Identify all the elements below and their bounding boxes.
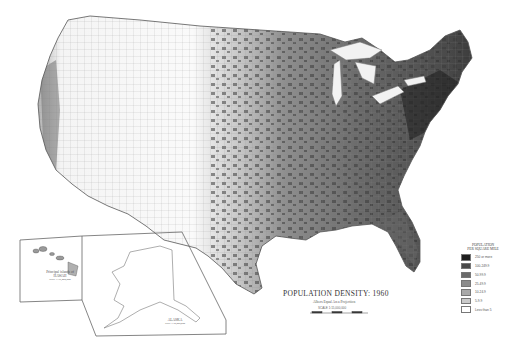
legend-swatch (461, 254, 471, 261)
map-title: POPULATION DENSITY: 1960 (283, 289, 389, 298)
hawaii-scale: Scale 1:15,000,000 (30, 278, 90, 282)
legend-swatch (461, 272, 471, 279)
legend-title-line2: PER SQUARE MILE (461, 247, 505, 251)
legend-item: 25-49.9 (461, 280, 505, 287)
hawaii-caption: Principal islands of HAWAII Scale 1:15,0… (30, 270, 90, 283)
alaska-outline (104, 246, 200, 328)
legend-item: Less than 5 (461, 306, 505, 313)
legend-label: 25-49.9 (475, 282, 486, 286)
legend-swatch (461, 263, 471, 270)
legend-swatch (461, 306, 471, 313)
legend-label: 50-99.9 (475, 273, 486, 277)
legend-item: 10-24.9 (461, 289, 505, 296)
legend-swatch (461, 280, 471, 287)
legend-item: 100-249.9 (461, 263, 505, 270)
legend-item: 5-9.9 (461, 297, 505, 304)
legend-swatch (461, 289, 471, 296)
legend-label: 5-9.9 (475, 299, 482, 303)
legend-item: 50-99.9 (461, 271, 505, 278)
alaska-caption: ALASKA Scale 1:30,000,000 (155, 318, 195, 326)
legend-label: 10-24.9 (475, 290, 486, 294)
legend-title: POPULATION PER SQUARE MILE (461, 243, 505, 252)
population-density-map (0, 0, 507, 350)
legend-rows: 250 or more100-249.950-99.925-49.910-24.… (461, 254, 505, 313)
legend-swatch (461, 298, 471, 305)
legend-item: 250 or more (461, 254, 505, 261)
map-scale: SCALE 1:15,000,000 (318, 306, 346, 310)
conterminous-us (0, 0, 507, 350)
legend-label: Less than 5 (475, 308, 491, 312)
legend: POPULATION PER SQUARE MILE 250 or more10… (461, 243, 505, 315)
legend-label: 100-249.9 (475, 264, 489, 268)
legend-label: 250 or more (475, 255, 492, 259)
alaska-scale: Scale 1:30,000,000 (155, 322, 195, 326)
scale-bar (310, 312, 368, 314)
map-projection: Albers Equal Area Projection (313, 300, 355, 304)
